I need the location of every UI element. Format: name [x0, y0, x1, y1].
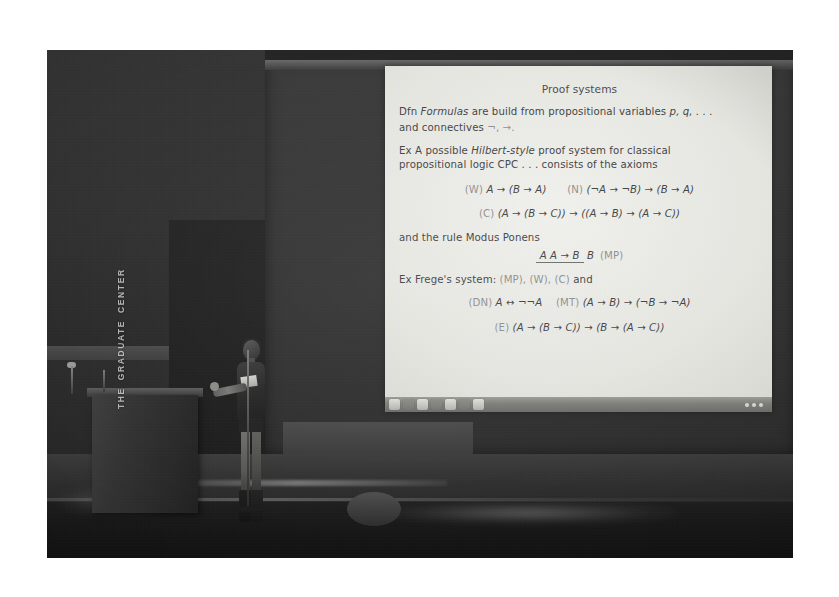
example1-line1-b: proof system for classical	[535, 145, 671, 156]
definition-variables: p, q, . . .	[670, 106, 713, 117]
axiom-tag-mt: (MT)	[556, 297, 579, 308]
slide-title: Proof systems	[399, 82, 760, 97]
taskbar-app-icon-1[interactable]	[389, 399, 400, 410]
modus-ponens-tag: (MP)	[600, 249, 623, 263]
definition-line2-prefix: and connectives	[399, 122, 487, 133]
slide-example1-line-1: Ex A possible Hilbert-style proof system…	[399, 144, 760, 158]
microphone-stand	[247, 350, 249, 510]
microphone-stand-base	[233, 506, 263, 512]
slide-content: Proof systems Dfn Formulas are build fro…	[385, 66, 772, 412]
axiom-tag-w: (W)	[465, 184, 483, 195]
projected-taskbar[interactable]	[385, 397, 772, 412]
tray-icon-1[interactable]	[745, 403, 749, 407]
example2-and: and	[573, 274, 592, 285]
modus-ponens-denominator: B	[587, 249, 594, 261]
podium: THE GRADUATE CENTER	[92, 395, 198, 513]
example1-line1-a: A possible	[415, 145, 471, 156]
podium-venue-logo: THE GRADUATE CENTER	[116, 317, 136, 409]
axiom-tag-dn: (DN)	[468, 297, 492, 308]
projected-slide: Proof systems Dfn Formulas are build fro…	[385, 66, 772, 412]
slide-rule-intro: and the rule Modus Ponens	[399, 231, 760, 245]
example2-cited-rules: (MP), (W), (C)	[500, 274, 570, 285]
taskbar-app-icon-2[interactable]	[403, 399, 414, 410]
speaker-head	[243, 340, 260, 360]
definition-line1-rest: are build from propositional variables	[468, 106, 669, 117]
podium-microphone-stem	[71, 366, 73, 394]
axiom-formula-n: (¬A → ¬B) → (B → A)	[586, 184, 694, 195]
taskbar-app-icon-3[interactable]	[417, 399, 428, 410]
slide-example2-line: Ex Frege's system: (MP), (W), (C) and	[399, 273, 760, 287]
tray-icon-3[interactable]	[759, 403, 763, 407]
taskbar-app-icon-7[interactable]	[473, 399, 484, 410]
lecture-photo: Proof systems Dfn Formulas are build fro…	[47, 50, 793, 558]
taskbar-app-icon-4[interactable]	[431, 399, 442, 410]
example2-label: Ex	[399, 274, 412, 285]
taskbar-app-icon-5[interactable]	[445, 399, 456, 410]
modus-ponens-rule: A A → B B (MP)	[399, 249, 760, 263]
venue-logo-line-2: GRADUATE	[116, 320, 126, 380]
modus-ponens-fraction: A A → B B	[536, 250, 594, 263]
speaker-leg-right	[252, 432, 261, 494]
definition-connectives: ¬, →.	[487, 122, 514, 133]
definition-term: Formulas	[421, 106, 469, 117]
tray-icon-2[interactable]	[752, 403, 756, 407]
floor-light-sheen	[377, 502, 677, 524]
slide-definition-line-2: and connectives ¬, →.	[399, 121, 760, 135]
stage-furniture-block	[283, 422, 473, 458]
venue-logo-line-3: CENTER	[116, 268, 126, 313]
slide-example1-line-2: propositional logic CPC . . . consists o…	[399, 158, 760, 172]
axiom-tag-c: (C)	[479, 208, 494, 219]
speaker-hand	[210, 382, 219, 391]
podium-microphone-stem-2	[103, 370, 105, 392]
definition-label: Dfn	[399, 106, 417, 117]
taskbar-app-icon-6[interactable]	[459, 399, 470, 410]
taskbar-system-tray[interactable]	[745, 403, 763, 407]
slide-definition-line-1: Dfn Formulas are build from propositiona…	[399, 105, 760, 119]
axiom-formula-e: (A → (B → C)) → (B → (A → C))	[513, 322, 665, 333]
axiom-formula-mt: (A → B) → (¬B → ¬A)	[583, 297, 691, 308]
hilbert-style-term: Hilbert-style	[471, 145, 535, 156]
stage-round-object	[347, 492, 401, 526]
axiom-row-dn-mt: (DN) A ↔ ¬¬A (MT) (A → B) → (¬B → ¬A)	[399, 296, 760, 310]
axiom-row-c: (C) (A → (B → C)) → ((A → B) → (A → C))	[399, 207, 760, 221]
axiom-tag-n: (N)	[567, 184, 583, 195]
axiom-formula-dn: A ↔ ¬¬A	[496, 297, 543, 308]
axiom-formula-c: (A → (B → C)) → ((A → B) → (A → C))	[498, 208, 680, 219]
modus-ponens-numerator: A A → B	[536, 250, 584, 263]
axiom-row-e: (E) (A → (B → C)) → (B → (A → C))	[399, 321, 760, 335]
example2-intro: Frege's system:	[415, 274, 496, 285]
axiom-row-w-n: (W) A → (B → A) (N) (¬A → ¬B) → (B → A)	[399, 183, 760, 197]
example1-label: Ex	[399, 145, 412, 156]
axiom-tag-e: (E)	[495, 322, 510, 333]
axiom-formula-w: A → (B → A)	[486, 184, 546, 195]
venue-logo-line-1: THE	[116, 387, 126, 409]
